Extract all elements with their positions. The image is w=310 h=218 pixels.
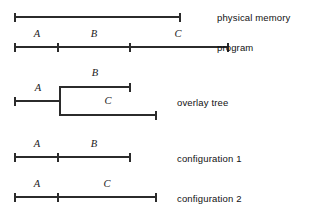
row-label-program: program	[217, 43, 253, 53]
segment-label-configuration-1-a: A	[34, 139, 40, 150]
segment-label-configuration-2-c: C	[103, 179, 110, 190]
segment-label-overlay-tree-a: A	[35, 83, 41, 94]
row-label-overlay-tree: overlay tree	[177, 98, 228, 108]
segment-label-configuration-2-a: A	[34, 179, 40, 190]
row-label-configuration-1: configuration 1	[177, 154, 242, 164]
diagram-canvas	[0, 0, 310, 218]
row-label-configuration-2: configuration 2	[177, 194, 242, 204]
segment-label-program-c: C	[174, 29, 181, 40]
segment-label-program-a: A	[34, 29, 40, 40]
segment-label-program-b: B	[91, 29, 97, 40]
row-label-physical-memory: physical memory	[217, 13, 291, 23]
overlay-diagram: physical memoryprogramABCoverlay treeABC…	[0, 0, 310, 218]
segment-label-overlay-tree-c: C	[104, 96, 111, 107]
segment-label-overlay-tree-b: B	[92, 68, 98, 79]
segment-label-configuration-1-b: B	[91, 139, 97, 150]
